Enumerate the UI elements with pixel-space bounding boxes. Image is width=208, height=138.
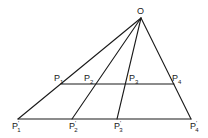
point-p2-label: P2 [84,73,94,85]
ray-1 [18,18,141,119]
apex-label-O: O [137,6,144,16]
point-labels: P1P2P3P4P'1P'2P'3P'4 [12,73,199,133]
point-p1-label: P1 [54,73,64,85]
ray-4 [141,18,191,119]
rays-from-apex [18,18,191,119]
point-p4-prime-label: P'4 [190,120,199,133]
ray-2 [72,18,141,119]
ray-3 [117,18,141,119]
point-p3-prime-label: P'3 [114,120,123,133]
perspectivity-diagram: P1P2P3P4P'1P'2P'3P'4 O [0,0,208,138]
point-p2-prime-label: P'2 [69,120,78,133]
point-p3-label: P3 [129,73,139,85]
point-p1-prime-label: P'1 [12,120,21,133]
